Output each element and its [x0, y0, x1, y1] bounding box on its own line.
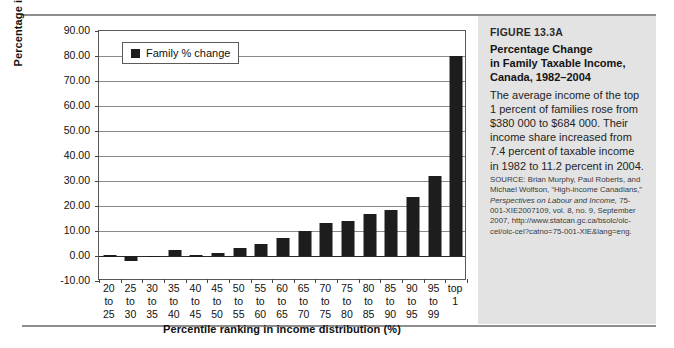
- chart-legend: Family % change: [122, 42, 239, 64]
- x-tick-label-line: 35: [163, 282, 185, 295]
- bar[interactable]: [168, 250, 181, 256]
- x-tick-label-line: 90: [379, 308, 401, 321]
- x-tick-label: 30to35: [141, 282, 163, 321]
- x-tick-label-line: 35: [141, 308, 163, 321]
- x-tick-label: top1: [444, 282, 466, 308]
- plot-area: [98, 30, 466, 280]
- bar[interactable]: [103, 255, 116, 257]
- bar-slot: [315, 31, 337, 279]
- x-tick-label-line: to: [228, 295, 250, 308]
- bar[interactable]: [385, 210, 398, 256]
- bar[interactable]: [190, 255, 203, 257]
- bar[interactable]: [212, 253, 225, 257]
- y-tick-label: 10.00: [64, 224, 90, 236]
- x-tick-label-line: 40: [185, 282, 207, 295]
- figure-source: SOURCE: Brian Murphy, Paul Roberts, and …: [490, 175, 644, 237]
- figure-page: Percentage increase in income (%) 90.008…: [0, 0, 674, 348]
- x-tick-label: 95to99: [423, 282, 445, 321]
- x-tick-label-line: 80: [336, 308, 358, 321]
- x-tick-label-line: 75: [314, 308, 336, 321]
- bar[interactable]: [406, 197, 419, 256]
- y-axis-tick-labels: 90.0080.0070.0060.0050.0040.0030.0020.00…: [38, 30, 90, 280]
- x-tick-label-line: 1: [444, 295, 466, 308]
- figure-caption-panel: FIGURE 13.3A Percentage Changein Family …: [478, 16, 656, 324]
- y-tick-label: 20.00: [64, 199, 90, 211]
- x-tick-label-line: to: [358, 295, 380, 308]
- bar-slot: [99, 31, 121, 279]
- bar-slot: [359, 31, 381, 279]
- x-axis-tick-labels: 20to2525to3030to3535to4040to4545to5050to…: [98, 282, 466, 324]
- x-tick-label-line: 65: [293, 282, 315, 295]
- y-tick-mark: [95, 81, 99, 82]
- bar[interactable]: [341, 221, 354, 256]
- x-tick-label-line: to: [120, 295, 142, 308]
- bar-slot: [164, 31, 186, 279]
- x-tick-label: 20to25: [98, 282, 120, 321]
- bar-slot: [424, 31, 446, 279]
- x-tick-label-line: 40: [163, 308, 185, 321]
- x-tick-label-line: to: [185, 295, 207, 308]
- x-tick-label-line: 25: [98, 308, 120, 321]
- x-tick-label-line: 55: [228, 308, 250, 321]
- bar[interactable]: [276, 238, 289, 256]
- y-tick-mark: [95, 56, 99, 57]
- x-tick-label-line: to: [271, 295, 293, 308]
- x-tick-label-line: to: [250, 295, 272, 308]
- x-tick-label-line: 85: [358, 308, 380, 321]
- bar[interactable]: [147, 256, 160, 258]
- y-tick-label: 90.00: [64, 24, 90, 36]
- bar[interactable]: [320, 223, 333, 256]
- y-tick-mark: [95, 31, 99, 32]
- x-tick-label: 25to30: [120, 282, 142, 321]
- x-tick-label: 40to45: [185, 282, 207, 321]
- legend-label: Family % change: [146, 47, 230, 59]
- x-tick-label-line: 85: [379, 282, 401, 295]
- x-tick-label-line: 45: [206, 282, 228, 295]
- y-tick-label: 70.00: [64, 74, 90, 86]
- x-tick-label-line: 25: [120, 282, 142, 295]
- bar[interactable]: [363, 214, 376, 256]
- x-tick-label: 60to65: [271, 282, 293, 321]
- x-tick-label: 70to75: [314, 282, 336, 321]
- x-tick-label-line: 80: [358, 282, 380, 295]
- bar[interactable]: [125, 256, 138, 261]
- y-tick-mark: [95, 156, 99, 157]
- figure-description: The average income of the top 1 percent …: [490, 88, 644, 173]
- source-prefix: SOURCE: Brian Murphy, Paul Roberts, and …: [490, 175, 642, 194]
- y-tick-label: -10.00: [60, 274, 90, 286]
- x-tick-label-line: 99: [423, 308, 445, 321]
- x-tick-mark: [467, 279, 468, 283]
- y-tick-label: 80.00: [64, 49, 90, 61]
- bar[interactable]: [428, 176, 441, 256]
- x-tick-label-line: to: [401, 295, 423, 308]
- bar[interactable]: [450, 56, 463, 256]
- bar-slot: [142, 31, 164, 279]
- x-tick-label-line: 65: [271, 308, 293, 321]
- x-tick-label-line: 45: [185, 308, 207, 321]
- x-tick-label-line: to: [206, 295, 228, 308]
- bar-slot: [380, 31, 402, 279]
- x-tick-label-line: 30: [120, 308, 142, 321]
- x-tick-label-line: 50: [206, 308, 228, 321]
- x-tick-label-line: 90: [401, 282, 423, 295]
- bar-slot: [251, 31, 273, 279]
- bar-slot: [402, 31, 424, 279]
- y-tick-label: 30.00: [64, 174, 90, 186]
- x-tick-label-line: 95: [423, 282, 445, 295]
- x-tick-label: 85to90: [379, 282, 401, 321]
- x-tick-label: 65to70: [293, 282, 315, 321]
- x-tick-label-line: to: [163, 295, 185, 308]
- bar-series: [99, 31, 465, 279]
- bar[interactable]: [233, 248, 246, 256]
- bar[interactable]: [255, 244, 268, 257]
- bar[interactable]: [298, 231, 311, 257]
- x-tick-label-line: 50: [228, 282, 250, 295]
- x-tick-label-line: 30: [141, 282, 163, 295]
- bar-slot: [294, 31, 316, 279]
- x-tick-label-line: 70: [314, 282, 336, 295]
- x-axis-title: Percentile ranking in income distributio…: [98, 323, 466, 335]
- y-tick-mark: [95, 206, 99, 207]
- figure-title-line: in Family Taxable Income,: [490, 56, 644, 70]
- x-tick-label: 35to40: [163, 282, 185, 321]
- x-tick-label-line: to: [314, 295, 336, 308]
